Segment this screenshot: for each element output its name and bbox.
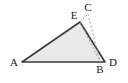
geometry-figure: A E C B D (0, 0, 128, 83)
vertex-label-a: A (10, 56, 18, 68)
vertex-label-e: E (71, 9, 78, 21)
vertex-label-d: D (109, 56, 117, 68)
figure-canvas: A E C B D (0, 0, 128, 83)
vertex-label-b: B (96, 63, 103, 75)
vertex-label-c: C (84, 1, 91, 13)
